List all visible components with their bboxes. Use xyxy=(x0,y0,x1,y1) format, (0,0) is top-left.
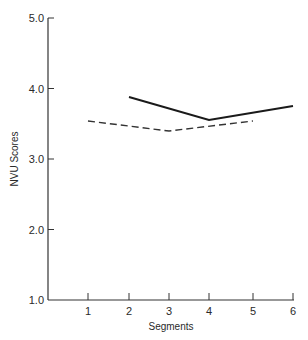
x-tick-labels: 1 2 3 4 5 6 xyxy=(85,305,296,317)
series-dashed-line xyxy=(88,121,253,131)
x-tick-label: 4 xyxy=(206,305,212,317)
x-ticks xyxy=(88,293,293,300)
y-tick-label: 5.0 xyxy=(29,12,44,24)
y-ticks xyxy=(48,18,54,230)
y-tick-labels: 5.0 4.0 3.0 2.0 1.0 xyxy=(29,12,44,306)
x-axis-title: Segments xyxy=(148,321,193,332)
y-tick-label: 1.0 xyxy=(29,294,44,306)
x-tick-label: 2 xyxy=(126,305,132,317)
series-solid-line xyxy=(129,97,293,120)
x-tick-label: 5 xyxy=(250,305,256,317)
y-axis-title: NVU Scores xyxy=(9,131,20,186)
x-tick-label: 3 xyxy=(166,305,172,317)
y-tick-label: 4.0 xyxy=(29,83,44,95)
x-tick-label: 6 xyxy=(290,305,296,317)
line-chart: 5.0 4.0 3.0 2.0 1.0 1 2 3 4 5 6 Segments… xyxy=(0,0,308,340)
y-tick-label: 2.0 xyxy=(29,224,44,236)
y-tick-label: 3.0 xyxy=(29,153,44,165)
x-tick-label: 1 xyxy=(85,305,91,317)
